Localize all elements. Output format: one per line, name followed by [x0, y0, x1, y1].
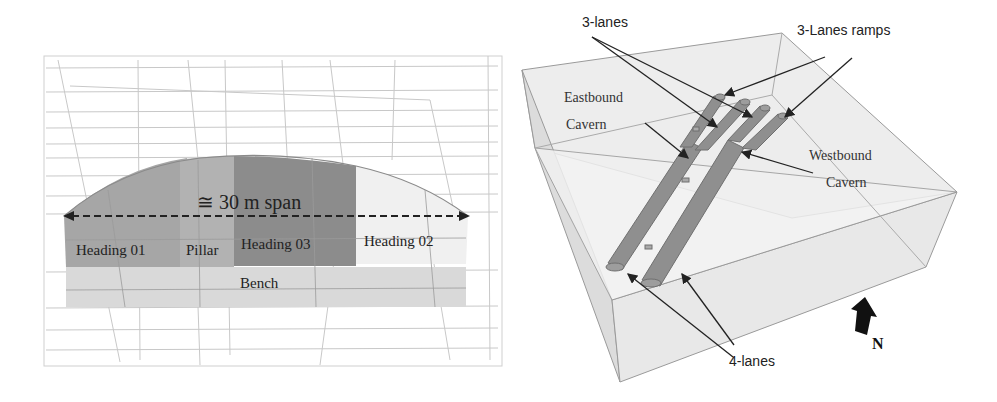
north-arrow-icon: [851, 297, 877, 335]
eastbound-line1: Eastbound: [564, 84, 623, 111]
heading-01-label: Heading 01: [76, 242, 146, 259]
westbound-line1: Westbound: [809, 142, 872, 169]
westbound-line2: Cavern: [826, 169, 872, 196]
three-lanes-ramps-label: 3-Lanes ramps: [797, 22, 890, 38]
heading-02-label: Heading 02: [364, 233, 434, 250]
eastbound-line2: Cavern: [566, 111, 623, 138]
three-lanes-label: 3-lanes: [582, 14, 628, 30]
bench-label: Bench: [240, 275, 278, 292]
eastbound-cavern-label: Eastbound Cavern: [564, 84, 623, 138]
north-label: N: [872, 335, 884, 353]
cross-section-panel: ≅ 30 m span Heading 01 Pillar Heading 03…: [0, 0, 520, 402]
four-lanes-label: 4-lanes: [729, 353, 775, 369]
model-3d-panel: 3-lanes 3-Lanes ramps Eastbound Cavern W…: [520, 0, 997, 402]
heading-03-label: Heading 03: [241, 236, 311, 253]
westbound-cavern-label: Westbound Cavern: [809, 142, 872, 196]
pillar-label: Pillar: [186, 242, 219, 259]
model-3d-drawing: [520, 0, 997, 402]
span-label: ≅ 30 m span: [197, 190, 301, 214]
